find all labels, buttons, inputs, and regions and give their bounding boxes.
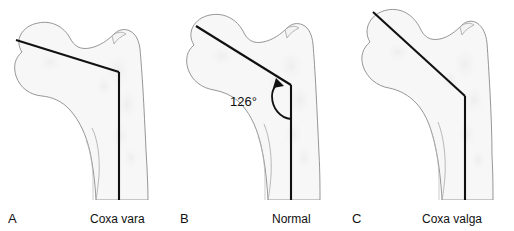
femur-illustration-a <box>0 0 171 200</box>
panel-normal: 126° B Normal <box>172 0 343 231</box>
panel-caption-c: Coxa valga <box>422 213 482 225</box>
femur-illustration-c <box>344 0 514 200</box>
panel-caption-a: Coxa vara <box>90 213 145 225</box>
panel-coxa-valga: C Coxa valga <box>344 0 514 231</box>
femur-neck-shaft-angle-figure: A Coxa vara <box>0 0 514 231</box>
panel-letter-b: B <box>180 212 189 225</box>
femur-illustration-b: 126° <box>172 0 343 200</box>
panel-letter-a: A <box>8 212 17 225</box>
panel-letter-c: C <box>352 212 362 225</box>
neck-shaft-angle-label-b: 126° <box>230 94 257 109</box>
panel-caption-b: Normal <box>272 213 311 225</box>
panel-coxa-vara: A Coxa vara <box>0 0 171 231</box>
